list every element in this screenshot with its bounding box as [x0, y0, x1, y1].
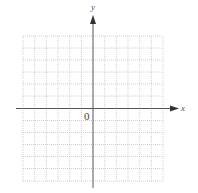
- y-axis-label: y: [91, 3, 95, 12]
- y-axis-arrow-icon: [90, 15, 96, 24]
- x-axis-label: x: [181, 104, 185, 113]
- axes: [16, 22, 172, 188]
- origin-label: 0: [84, 111, 90, 122]
- x-axis-arrow-icon: [170, 106, 179, 112]
- coordinate-plane: [0, 0, 198, 193]
